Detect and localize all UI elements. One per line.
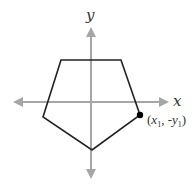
x-axis-right-arrow-icon (159, 97, 169, 107)
point-label-sep: , - (161, 112, 172, 127)
vertex-point (137, 112, 143, 118)
x-axis-left-arrow-icon (13, 97, 23, 107)
coordinate-diagram: y x (x1, -y1) (0, 0, 196, 186)
y-axis-down-arrow-icon (86, 169, 96, 179)
diagram-svg: y x (x1, -y1) (0, 0, 196, 186)
x-axis-label: x (173, 92, 182, 110)
point-label: (x1, -y1) (147, 112, 186, 129)
y-axis-up-arrow-icon (86, 27, 96, 37)
y-axis-label: y (85, 6, 95, 24)
point-label-close: ) (182, 112, 186, 127)
